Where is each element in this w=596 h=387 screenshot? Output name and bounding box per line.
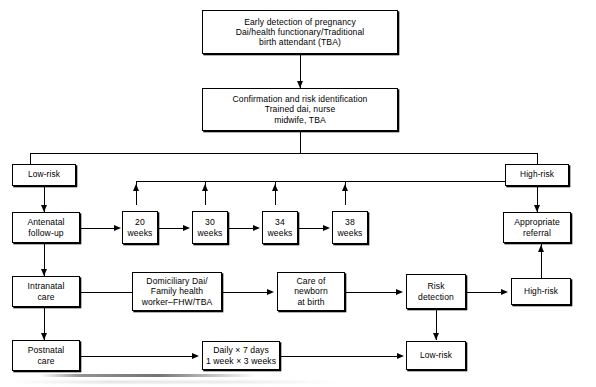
- node-30-weeks[interactable]: 30 weeks: [192, 211, 228, 244]
- arrowhead-postnatal-to-schedule: [192, 353, 199, 359]
- arrowhead-antenatal-to-20w: [114, 225, 121, 231]
- arrowhead-schedule-to-lowrisk: [397, 353, 404, 359]
- arrowhead-highrisk-to-referral: [534, 205, 540, 212]
- scan-artifact-smudge: [40, 374, 255, 377]
- connector-34w-to-38w: [299, 228, 325, 229]
- connector-confirmation-stem: [300, 131, 301, 153]
- arrowhead-intranatal-to-postnatal: [41, 333, 47, 340]
- arrowhead-antenatal-to-intranatal: [41, 269, 47, 276]
- connector-intranatal-to-domiciliary: [80, 292, 132, 293]
- flowchart-canvas: Early detection of pregnancy Dai/health …: [0, 0, 596, 387]
- node-postnatal-care[interactable]: Postnatal care: [12, 340, 80, 371]
- node-34-weeks[interactable]: 34 weeks: [262, 211, 298, 244]
- connector-weeks-referral-bus: [136, 181, 505, 182]
- connector-20w-to-30w: [159, 228, 185, 229]
- node-daily-schedule[interactable]: Daily × 7 days 1 week × 3 weeks: [202, 341, 280, 370]
- connector-postnatal-to-schedule: [80, 356, 194, 357]
- arrowhead-early-to-confirmation: [297, 81, 303, 88]
- node-care-of-newborn[interactable]: Care of newborn at birth: [277, 272, 345, 311]
- arrowhead-30w-to-34w: [253, 225, 260, 231]
- node-appropriate-referral[interactable]: Appropriate referral: [503, 212, 571, 243]
- connector-schedule-to-lowrisk: [281, 356, 399, 357]
- arrowhead-riser-38w: [342, 184, 348, 191]
- arrowhead-20w-to-30w: [183, 225, 190, 231]
- arrowhead-riser-20w: [133, 184, 139, 191]
- connector-risk-split-bus: [30, 153, 538, 154]
- node-risk-detection[interactable]: Risk detection: [406, 274, 466, 309]
- node-antenatal-followup[interactable]: Antenatal follow-up: [12, 212, 80, 243]
- connector-domiciliary-to-newborn: [223, 292, 269, 293]
- node-high-risk-mid[interactable]: High-risk: [511, 278, 571, 305]
- node-domiciliary-dai[interactable]: Domiciliary Dai/ Family health worker–FH…: [132, 272, 222, 311]
- node-early-detection[interactable]: Early detection of pregnancy Dai/health …: [202, 10, 398, 54]
- connector-risk-detection-to-highrisk: [467, 292, 503, 293]
- arrowhead-riser-34w: [272, 184, 278, 191]
- node-high-risk-top[interactable]: High-risk: [505, 164, 569, 186]
- arrowhead-newborn-to-risk-detection: [396, 289, 403, 295]
- arrowhead-riser-30w: [202, 184, 208, 191]
- node-intranatal-care[interactable]: Intranatal care: [12, 276, 80, 307]
- scan-artifact-faint-line: [10, 381, 340, 383]
- node-38-weeks[interactable]: 38 weeks: [332, 211, 368, 244]
- arrowhead-domiciliary-to-newborn: [267, 289, 274, 295]
- node-confirmation[interactable]: Confirmation and risk identification Tra…: [202, 88, 398, 131]
- node-low-risk-top[interactable]: Low-risk: [12, 164, 76, 186]
- node-20-weeks[interactable]: 20 weeks: [122, 211, 158, 244]
- arrowhead-34w-to-38w: [323, 225, 330, 231]
- arrowhead-risk-detection-to-lowrisk: [433, 333, 439, 340]
- arrowhead-risk-detection-to-highrisk: [501, 289, 508, 295]
- arrowhead-highrisk-mid-to-referral: [538, 245, 544, 252]
- connector-antenatal-to-20w: [80, 228, 116, 229]
- arrowhead-lowrisk-to-antenatal: [41, 205, 47, 212]
- connector-newborn-to-risk-detection: [346, 292, 398, 293]
- connector-30w-to-34w: [229, 228, 255, 229]
- node-low-risk-bottom[interactable]: Low-risk: [406, 341, 466, 370]
